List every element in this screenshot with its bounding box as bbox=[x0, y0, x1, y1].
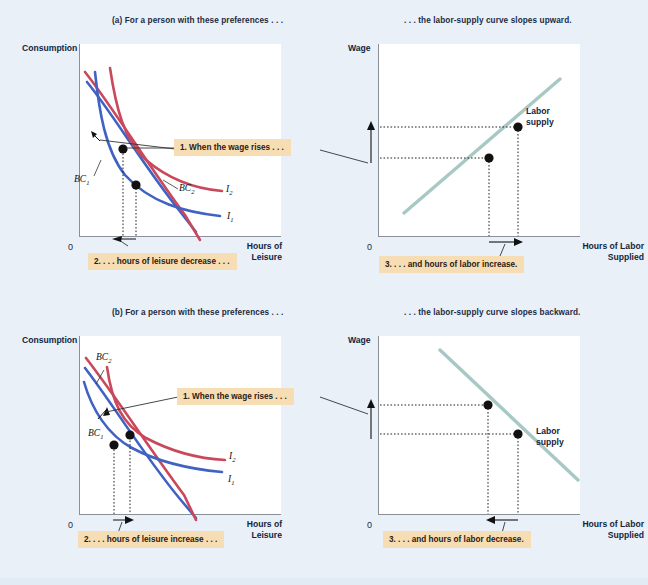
panel-a-callout-wage-rises: 1. When the wage rises . . . bbox=[174, 139, 291, 156]
panel-a-supply-point-high bbox=[513, 122, 522, 131]
panel-a-callout3-leader bbox=[500, 244, 505, 256]
panel-b-callout-wage-rises: 1. When the wage rises . . . bbox=[177, 388, 294, 405]
panel-b-supply-point-low bbox=[513, 429, 522, 438]
panel-a-supply-point-low bbox=[484, 153, 493, 162]
page-bottom-edge bbox=[0, 578, 648, 585]
panel-a-right-curves bbox=[0, 0, 648, 290]
panel-a-labor-arrowhead bbox=[514, 238, 523, 246]
panel-b-right-x-axis-label: Hours of Labor Supplied bbox=[556, 519, 644, 541]
panel-a-right-x-axis-label: Hours of Labor Supplied bbox=[556, 241, 644, 263]
panel-b-supply-point-high bbox=[483, 400, 492, 409]
panel-b-labor-supply-label: Labor supply bbox=[536, 426, 564, 448]
panel-a: (a) For a person with these preferences … bbox=[0, 0, 648, 290]
panel-a-callout-leisure: 2. . . . hours of leisure decrease . . . bbox=[88, 253, 237, 270]
figure-page: (a) For a person with these preferences … bbox=[0, 0, 648, 585]
panel-a-labor-supply-label: Labor supply bbox=[526, 106, 554, 128]
panel-b-labor-supply-curve bbox=[440, 350, 578, 480]
panel-a-labor-supply-curve bbox=[404, 79, 560, 213]
panel-b-wage-arrowhead bbox=[367, 399, 375, 408]
panel-b-callout-labor: 3. . . . and hours of labor decrease. bbox=[383, 531, 531, 548]
panel-a-right-origin-label: 0 bbox=[367, 242, 372, 252]
panel-a-wage-arrowhead bbox=[367, 121, 375, 130]
panel-a-callout-labor: 3. . . . and hours of labor increase. bbox=[379, 256, 524, 273]
panel-b-labor-arrowhead bbox=[486, 516, 495, 524]
panel-b-callout-leisure: 2. . . . hours of leisure increase . . . bbox=[78, 531, 224, 548]
panel-b-right-origin-label: 0 bbox=[367, 520, 372, 530]
panel-b: (b) For a person with these preferences … bbox=[0, 292, 648, 582]
